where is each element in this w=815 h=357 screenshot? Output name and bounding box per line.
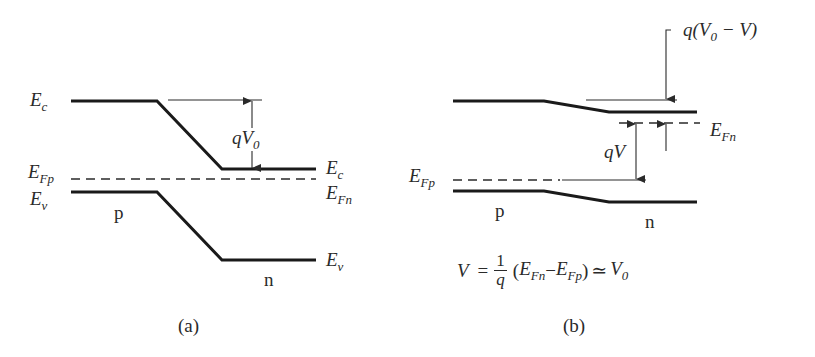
label-p-region-a: p bbox=[114, 203, 124, 222]
label-efn-b: EFn bbox=[710, 120, 736, 143]
caption-b: (b) bbox=[563, 316, 585, 335]
conduction-band-b bbox=[453, 101, 697, 112]
valence-band-a bbox=[71, 192, 316, 260]
label-ev-left: Ev bbox=[30, 189, 47, 212]
eq-equals: = bbox=[478, 261, 489, 280]
label-ec-right: Ec bbox=[326, 158, 343, 181]
label-qv: qV bbox=[604, 142, 625, 161]
eq-close-paren: ) bbox=[582, 261, 588, 280]
label-ec-left: Ec bbox=[30, 90, 47, 113]
caption-a: (a) bbox=[178, 316, 199, 335]
label-barrier-b: q(V0 − V) bbox=[683, 20, 757, 43]
conduction-band-a bbox=[71, 101, 316, 169]
eq-rhs: V0 bbox=[610, 259, 628, 282]
eq-frac-den: q bbox=[496, 271, 505, 289]
panel-a-diagram bbox=[71, 100, 316, 260]
label-efp-a: EFp bbox=[28, 162, 54, 185]
voltage-equation: V = 1 q ( EFn − EFp ) ≃ V0 bbox=[457, 252, 628, 289]
eq-lhs: V bbox=[457, 261, 469, 280]
panel-b-diagram bbox=[453, 30, 700, 202]
valence-band-b bbox=[453, 191, 697, 202]
label-ev-right: Ev bbox=[326, 250, 343, 273]
label-n-region-a: n bbox=[264, 270, 274, 289]
eq-fraction: 1 q bbox=[494, 252, 507, 289]
eq-frac-num: 1 bbox=[494, 252, 507, 271]
eq-term1: EFn bbox=[519, 259, 545, 282]
eq-term2: EFp bbox=[556, 259, 582, 282]
band-diagram-canvas bbox=[0, 0, 815, 357]
label-efp-b: EFp bbox=[409, 166, 435, 189]
eq-minus: − bbox=[545, 261, 556, 280]
label-efn-a: EFn bbox=[326, 183, 352, 206]
eq-approx: ≃ bbox=[591, 261, 607, 280]
barrier-leader-b bbox=[666, 30, 671, 99]
label-n-region-b: n bbox=[645, 212, 655, 231]
label-p-region-b: p bbox=[495, 201, 505, 220]
label-qv0: qV0 bbox=[231, 128, 261, 151]
